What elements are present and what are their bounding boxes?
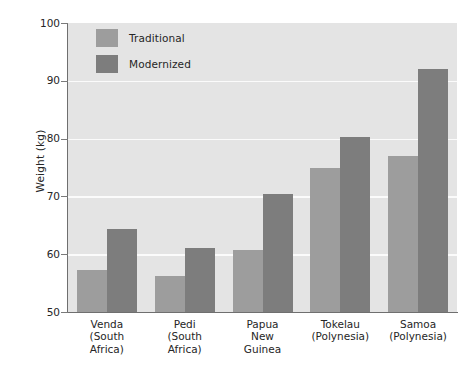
x-axis-line — [67, 312, 458, 313]
x-axis-label-line: Guinea — [203, 343, 323, 355]
tick-mark-90 — [61, 81, 68, 82]
legend-item-traditional: Traditional — [96, 27, 191, 48]
y-axis-tick-90: 90 — [36, 75, 60, 86]
tick-mark-100 — [61, 23, 68, 24]
y-axis-tick-70: 70 — [36, 191, 60, 202]
bar-traditional-4 — [388, 156, 418, 312]
x-axis-label-4: Samoa(Polynesia) — [358, 318, 470, 343]
bar-modernized-0 — [107, 229, 137, 312]
y-axis-tick-80: 80 — [36, 133, 60, 144]
y-axis-line — [67, 23, 68, 313]
x-axis-label-line: (Polynesia) — [358, 330, 470, 342]
gridline-80 — [68, 139, 457, 140]
y-axis-tick-labels: 1009080706050 — [34, 0, 60, 367]
legend-label-traditional: Traditional — [129, 32, 185, 44]
bar-traditional-2 — [233, 250, 263, 312]
y-axis-tick-50: 50 — [36, 307, 60, 318]
tick-mark-80 — [61, 139, 68, 140]
legend-item-modernized: Modernized — [96, 53, 191, 74]
bar-traditional-0 — [77, 270, 107, 312]
bar-modernized-4 — [418, 69, 448, 312]
x-axis-label-line: Samoa — [358, 318, 470, 330]
bar-modernized-3 — [340, 137, 370, 312]
bar-modernized-2 — [263, 194, 293, 312]
tick-mark-70 — [61, 196, 68, 197]
legend-label-modernized: Modernized — [129, 58, 191, 70]
gridline-90 — [68, 81, 457, 82]
bar-traditional-1 — [155, 276, 185, 312]
y-axis-tick-60: 60 — [36, 249, 60, 260]
bar-modernized-1 — [185, 248, 215, 312]
legend-swatch-traditional — [96, 29, 118, 47]
tick-mark-60 — [61, 254, 68, 255]
bar-chart-figure: Weight (kg) 1009080706050 TraditionalMod… — [0, 0, 470, 367]
bar-traditional-3 — [310, 168, 340, 313]
y-axis-tick-100: 100 — [36, 18, 60, 29]
tick-mark-50 — [61, 312, 68, 313]
chart-legend: TraditionalModernized — [96, 27, 191, 79]
legend-swatch-modernized — [96, 55, 118, 73]
